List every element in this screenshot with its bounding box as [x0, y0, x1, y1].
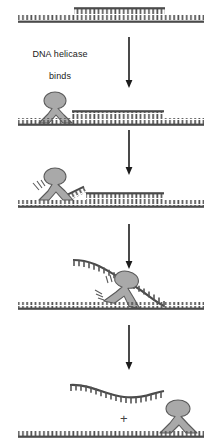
arrow-1-down	[121, 37, 137, 89]
panel-5-graphic	[0, 375, 221, 447]
short-strand-annealed	[86, 192, 164, 200]
panel-2-helicase-binds	[0, 85, 221, 135]
template-strand	[18, 15, 204, 23]
plus-symbol: +	[120, 412, 128, 425]
panel-3-graphic	[0, 163, 221, 218]
template-strand	[18, 302, 204, 310]
panel-1-duplex	[0, 0, 221, 30]
panel-5-separated	[0, 375, 221, 447]
motion-lines-icon	[106, 275, 112, 283]
panel-1-graphic	[0, 0, 221, 30]
caption-line-1: DNA helicase	[8, 49, 112, 60]
template-strand	[18, 118, 204, 126]
panel-3-unwinding-begins	[0, 163, 221, 218]
short-strand-duplex	[72, 110, 164, 118]
template-strand	[18, 200, 204, 208]
motion-lines-icon	[33, 180, 45, 190]
released-single-strand	[70, 385, 164, 404]
motion-lines-icon	[95, 290, 104, 300]
short-strand-duplex	[74, 7, 165, 15]
template-strand	[18, 430, 204, 438]
panel-4-graphic	[0, 250, 221, 318]
panel-4-unwinding-midway	[0, 250, 221, 318]
arrow-4-down	[121, 325, 137, 371]
panel-2-graphic	[0, 85, 221, 135]
caption-line-2: binds	[8, 71, 112, 82]
dna-helicase-diagram: DNA helicase binds	[0, 0, 221, 447]
dna-helicase-protein	[160, 400, 197, 433]
